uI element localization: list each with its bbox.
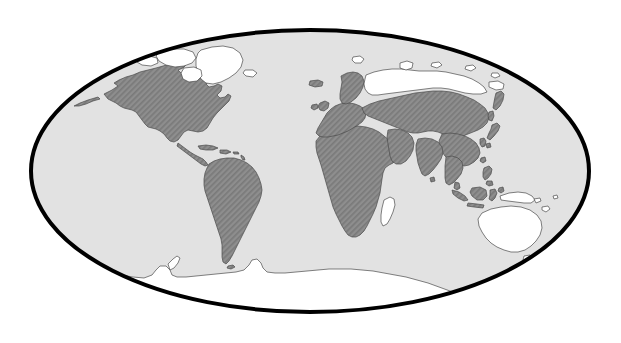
region-sri-lanka <box>430 177 435 182</box>
region-novaya-zemlya <box>400 61 413 70</box>
region-japan-kyushu <box>486 143 491 148</box>
region-malay-peninsula <box>454 182 460 190</box>
region-caribbean-puerto-rico <box>233 152 239 154</box>
region-iceland <box>309 80 323 87</box>
world-map-figure <box>0 0 621 343</box>
world-map-svg <box>0 0 621 343</box>
region-korea <box>480 138 486 147</box>
region-fiji <box>553 195 558 199</box>
